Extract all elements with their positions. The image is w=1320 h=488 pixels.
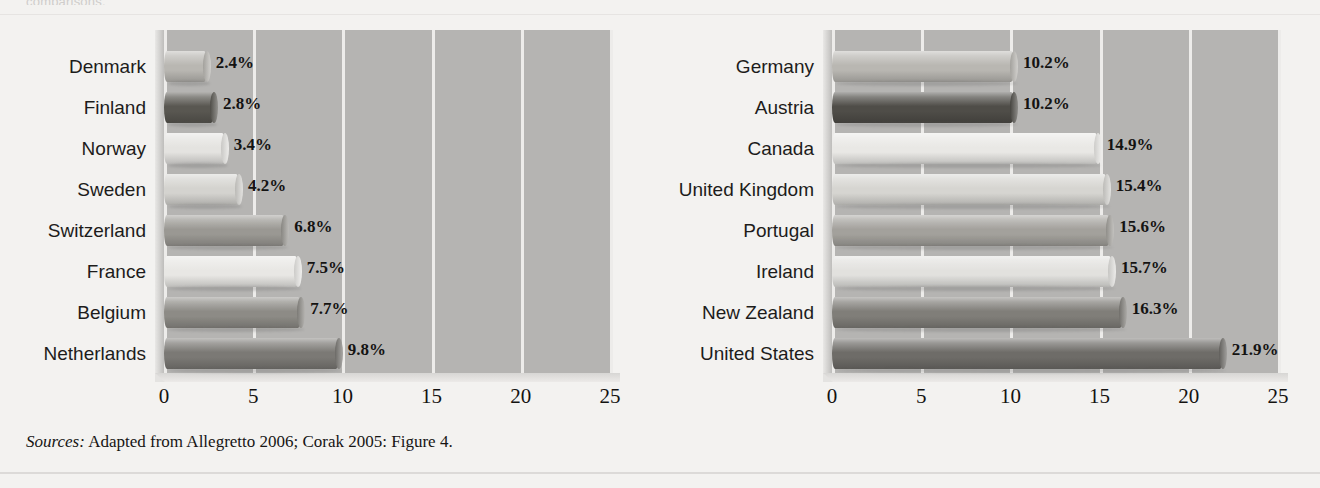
bar-end-cap xyxy=(335,338,343,369)
bar xyxy=(164,92,214,123)
bar-shadow xyxy=(836,163,1101,168)
bar-row: 10.2% xyxy=(832,87,1278,128)
bar xyxy=(832,92,1014,123)
bar-row: 4.2% xyxy=(164,169,610,210)
bar xyxy=(164,297,301,328)
bar-row: 15.6% xyxy=(832,210,1278,251)
bar xyxy=(164,133,225,164)
sources-label: Sources: xyxy=(26,432,85,451)
bar-value-label: 7.7% xyxy=(310,299,348,319)
axis-tick-label: 5 xyxy=(916,384,927,409)
x-axis-right: 0510152025 xyxy=(832,378,1278,412)
bar xyxy=(164,215,285,246)
bar-row: 7.5% xyxy=(164,251,610,292)
bar xyxy=(832,51,1014,82)
axis-tick-label: 10 xyxy=(1000,384,1021,409)
bar-row: 15.7% xyxy=(832,251,1278,292)
sources-body: Adapted from Allegretto 2006; Corak 2005… xyxy=(85,432,453,451)
bar-value-label: 7.5% xyxy=(307,258,345,278)
axis-tick-label: 20 xyxy=(510,384,531,409)
bar xyxy=(164,338,339,369)
bars-left: 2.4%2.8%3.4%4.2%6.8%7.5%7.7%9.8% xyxy=(164,30,610,378)
category-label: Sweden xyxy=(0,169,155,210)
bar-value-label: 10.2% xyxy=(1023,94,1070,114)
bar-value-label: 21.9% xyxy=(1232,340,1279,360)
bar-row: 10.2% xyxy=(832,46,1278,87)
category-labels-left: DenmarkFinlandNorwaySwedenSwitzerlandFra… xyxy=(0,26,155,378)
bar-row: 2.4% xyxy=(164,46,610,87)
bar xyxy=(164,51,207,82)
bar xyxy=(832,215,1110,246)
bar-row: 14.9% xyxy=(832,128,1278,169)
bar-shadow xyxy=(168,204,242,209)
sources-note: Sources: Adapted from Allegretto 2006; C… xyxy=(26,432,453,452)
plot-area-left: 2.4%2.8%3.4%4.2%6.8%7.5%7.7%9.8% 0510152… xyxy=(155,26,620,386)
category-label: Canada xyxy=(660,128,823,169)
bar-shadow xyxy=(836,245,1113,250)
bar-end-cap xyxy=(210,92,218,123)
bar-value-label: 6.8% xyxy=(294,217,332,237)
bar xyxy=(832,338,1223,369)
axis-tick-label: 5 xyxy=(248,384,259,409)
bar xyxy=(164,256,298,287)
chart-panel-right: GermanyAustriaCanadaUnited KingdomPortug… xyxy=(660,26,1320,386)
bar-row: 9.8% xyxy=(164,333,610,374)
bar xyxy=(832,174,1107,205)
bar-row: 7.7% xyxy=(164,292,610,333)
bar xyxy=(832,256,1112,287)
bar-row: 6.8% xyxy=(164,210,610,251)
bar-shadow xyxy=(836,81,1017,86)
bar-row: 16.3% xyxy=(832,292,1278,333)
bar-value-label: 14.9% xyxy=(1107,135,1154,155)
axis-tick-label: 0 xyxy=(827,384,838,409)
bar-row: 21.9% xyxy=(832,333,1278,374)
bar-shadow xyxy=(168,245,288,250)
bar-shadow xyxy=(836,204,1110,209)
bar-end-cap xyxy=(1094,133,1102,164)
bar-row: 2.8% xyxy=(164,87,610,128)
bar xyxy=(832,297,1123,328)
axis-tick-label: 0 xyxy=(159,384,170,409)
axis-tick-label: 15 xyxy=(1089,384,1110,409)
category-label: Norway xyxy=(0,128,155,169)
category-label: Finland xyxy=(0,87,155,128)
category-label: France xyxy=(0,251,155,292)
bar-row: 15.4% xyxy=(832,169,1278,210)
category-label: Ireland xyxy=(660,251,823,292)
bar-shadow xyxy=(168,368,342,373)
axis-tick-label: 25 xyxy=(1268,384,1289,409)
category-label: Netherlands xyxy=(0,333,155,374)
axis-tick-label: 20 xyxy=(1178,384,1199,409)
bar-value-label: 2.4% xyxy=(216,53,254,73)
bar-row: 3.4% xyxy=(164,128,610,169)
figure-page: comparisons. DenmarkFinlandNorwaySwedenS… xyxy=(0,0,1320,488)
bar-end-cap xyxy=(1010,51,1018,82)
bar-end-cap xyxy=(1108,256,1116,287)
bar-value-label: 9.8% xyxy=(348,340,386,360)
bar-shadow xyxy=(168,122,217,127)
category-label: United States xyxy=(660,333,823,374)
bar-end-cap xyxy=(203,51,211,82)
bar xyxy=(832,133,1098,164)
bar xyxy=(164,174,239,205)
bar-end-cap xyxy=(1010,92,1018,123)
bar-value-label: 15.4% xyxy=(1116,176,1163,196)
category-label: Denmark xyxy=(0,46,155,87)
bar-shadow xyxy=(168,81,210,86)
category-label: New Zealand xyxy=(660,292,823,333)
bar-end-cap xyxy=(221,133,229,164)
plot-area-right: 10.2%10.2%14.9%15.4%15.6%15.7%16.3%21.9%… xyxy=(823,26,1288,386)
category-label: Germany xyxy=(660,46,823,87)
gridline xyxy=(610,30,613,378)
bar-value-label: 2.8% xyxy=(223,94,261,114)
bar-shadow xyxy=(168,327,304,332)
bar-shadow xyxy=(168,163,228,168)
bar-value-label: 16.3% xyxy=(1132,299,1179,319)
axis-tick-label: 10 xyxy=(332,384,353,409)
top-divider xyxy=(0,14,1320,15)
bar-end-cap xyxy=(294,256,302,287)
category-label: Portugal xyxy=(660,210,823,251)
bar-shadow xyxy=(168,286,301,291)
bar-shadow xyxy=(836,286,1115,291)
category-label: United Kingdom xyxy=(660,169,823,210)
